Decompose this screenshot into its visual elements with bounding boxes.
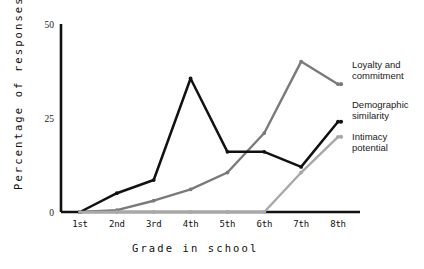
x-tick-label: 4th [183, 219, 199, 229]
data-point [115, 210, 119, 214]
legend-marker [339, 135, 343, 139]
legend-marker [339, 82, 343, 86]
x-tick-label: 5th [220, 219, 236, 229]
data-point [78, 210, 82, 214]
x-tick-label: 2nd [109, 219, 125, 229]
data-point [262, 210, 266, 214]
data-point [152, 178, 156, 182]
x-tick-label: 6th [256, 219, 272, 229]
data-point [189, 77, 193, 81]
data-point [152, 210, 156, 214]
data-point [189, 188, 193, 192]
x-tick-labels: 1st2nd3rd4th5th6th7th8th [72, 219, 346, 229]
x-tick-label: 1st [72, 219, 88, 229]
x-tick-label: 8th [330, 219, 346, 229]
series-line [80, 137, 338, 212]
legend-label[interactable]: commitment [352, 70, 404, 81]
x-axis-title: Grade in school [132, 242, 258, 254]
data-point [299, 165, 303, 169]
data-point [262, 131, 266, 135]
x-tick-label: 3rd [146, 219, 162, 229]
y-axis-title: Percentage of responses [12, 0, 24, 190]
line-chart: 02550 1st2nd3rd4th5th6th7th8th Loyalty a… [0, 0, 424, 269]
y-tick-label: 50 [45, 20, 55, 30]
data-point [226, 171, 230, 175]
legend-label[interactable]: Intimacy [352, 131, 388, 142]
chart-canvas: 02550 1st2nd3rd4th5th6th7th8th Loyalty a… [0, 0, 424, 269]
chart-legend: Loyalty andcommitmentDemographicsimilari… [339, 59, 409, 153]
data-point [299, 171, 303, 175]
data-point [299, 60, 303, 64]
x-tick-label: 7th [293, 219, 309, 229]
series-line [80, 62, 338, 212]
legend-marker [339, 120, 343, 124]
legend-label[interactable]: Loyalty and [352, 59, 401, 70]
y-tick-label: 0 [49, 208, 54, 218]
legend-label[interactable]: potential [352, 142, 388, 153]
data-point [152, 199, 156, 203]
y-tick-label: 25 [45, 114, 55, 124]
data-point [262, 150, 266, 154]
series-line [80, 79, 338, 212]
data-point [189, 210, 193, 214]
y-tick-labels: 02550 [45, 20, 55, 218]
data-point [115, 191, 119, 195]
data-point [226, 210, 230, 214]
legend-label[interactable]: Demographic [352, 99, 409, 110]
data-point [226, 150, 230, 154]
data-series-group [78, 60, 340, 214]
legend-label[interactable]: similarity [352, 110, 389, 121]
